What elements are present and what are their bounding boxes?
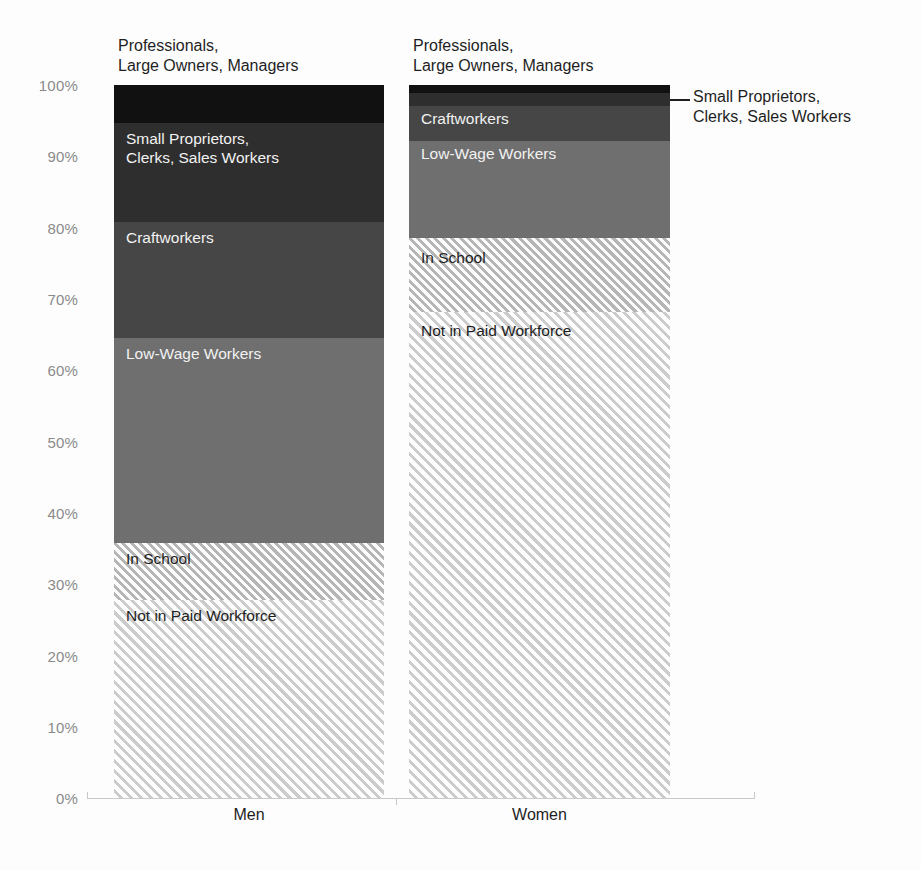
men-segment-craftworkers-label: Craftworkers — [126, 228, 214, 247]
x-axis-tick-left — [87, 792, 88, 799]
y-tick-40: 40% — [47, 505, 78, 522]
y-tick-80: 80% — [47, 220, 78, 237]
women-segment-not-in-paid-workforce[interactable]: Not in Paid Workforce — [409, 312, 670, 798]
women-segment-craftworkers-label: Craftworkers — [421, 109, 509, 128]
women-segment-low-wage-workers[interactable]: Low-Wage Workers — [409, 141, 670, 238]
women-segment-in-school[interactable]: In School — [409, 238, 670, 312]
y-tick-10: 10% — [47, 719, 78, 736]
men-segment-not-in-paid-workforce[interactable]: Not in Paid Workforce — [114, 600, 384, 798]
men-segment-not-in-paid-workforce-label: Not in Paid Workforce — [126, 606, 276, 625]
men-segment-craftworkers[interactable]: Craftworkers — [114, 222, 384, 338]
y-tick-50: 50% — [47, 434, 78, 451]
men-segment-low-wage-workers-label: Low-Wage Workers — [126, 344, 261, 363]
women-segment-small-proprietors[interactable] — [409, 93, 670, 106]
x-label-women: Women — [409, 806, 670, 824]
women-segment-low-wage-workers-label: Low-Wage Workers — [421, 144, 556, 163]
y-tick-70: 70% — [47, 291, 78, 308]
women-segment-professionals[interactable] — [409, 85, 670, 93]
y-axis: 100% 90% 80% 70% 60% 50% 40% 30% 20% 10%… — [0, 0, 88, 870]
women-segment-not-in-paid-workforce-label: Not in Paid Workforce — [421, 321, 571, 340]
men-segment-in-school[interactable]: In School — [114, 543, 384, 600]
y-tick-60: 60% — [47, 362, 78, 379]
x-label-men: Men — [114, 806, 384, 824]
women-bar-top-title: Professionals, Large Owners, Managers — [413, 36, 594, 76]
men-stacked-bar: Small Proprietors, Clerks, Sales Workers… — [114, 85, 384, 798]
callout-leader-line — [670, 99, 690, 101]
y-tick-90: 90% — [47, 148, 78, 165]
y-tick-20: 20% — [47, 648, 78, 665]
x-axis-tick-mid — [396, 798, 397, 805]
chart-canvas: 100% 90% 80% 70% 60% 50% 40% 30% 20% 10%… — [0, 0, 921, 870]
men-segment-small-proprietors[interactable]: Small Proprietors, Clerks, Sales Workers — [114, 123, 384, 222]
men-segment-low-wage-workers[interactable]: Low-Wage Workers — [114, 338, 384, 543]
x-axis-line — [87, 798, 755, 799]
men-segment-professionals[interactable] — [114, 85, 384, 123]
women-stacked-bar: Craftworkers Low-Wage Workers In School … — [409, 85, 670, 798]
men-bar-top-title: Professionals, Large Owners, Managers — [118, 36, 299, 76]
women-segment-in-school-label: In School — [421, 248, 486, 267]
y-tick-0: 0% — [56, 790, 78, 807]
men-segment-in-school-label: In School — [126, 549, 191, 568]
x-axis-tick-right — [754, 792, 755, 799]
men-segment-small-proprietors-label: Small Proprietors, Clerks, Sales Workers — [126, 129, 279, 167]
y-tick-100: 100% — [39, 77, 78, 94]
y-tick-30: 30% — [47, 576, 78, 593]
callout-small-proprietors: Small Proprietors, Clerks, Sales Workers — [693, 87, 851, 127]
women-segment-craftworkers[interactable]: Craftworkers — [409, 106, 670, 141]
